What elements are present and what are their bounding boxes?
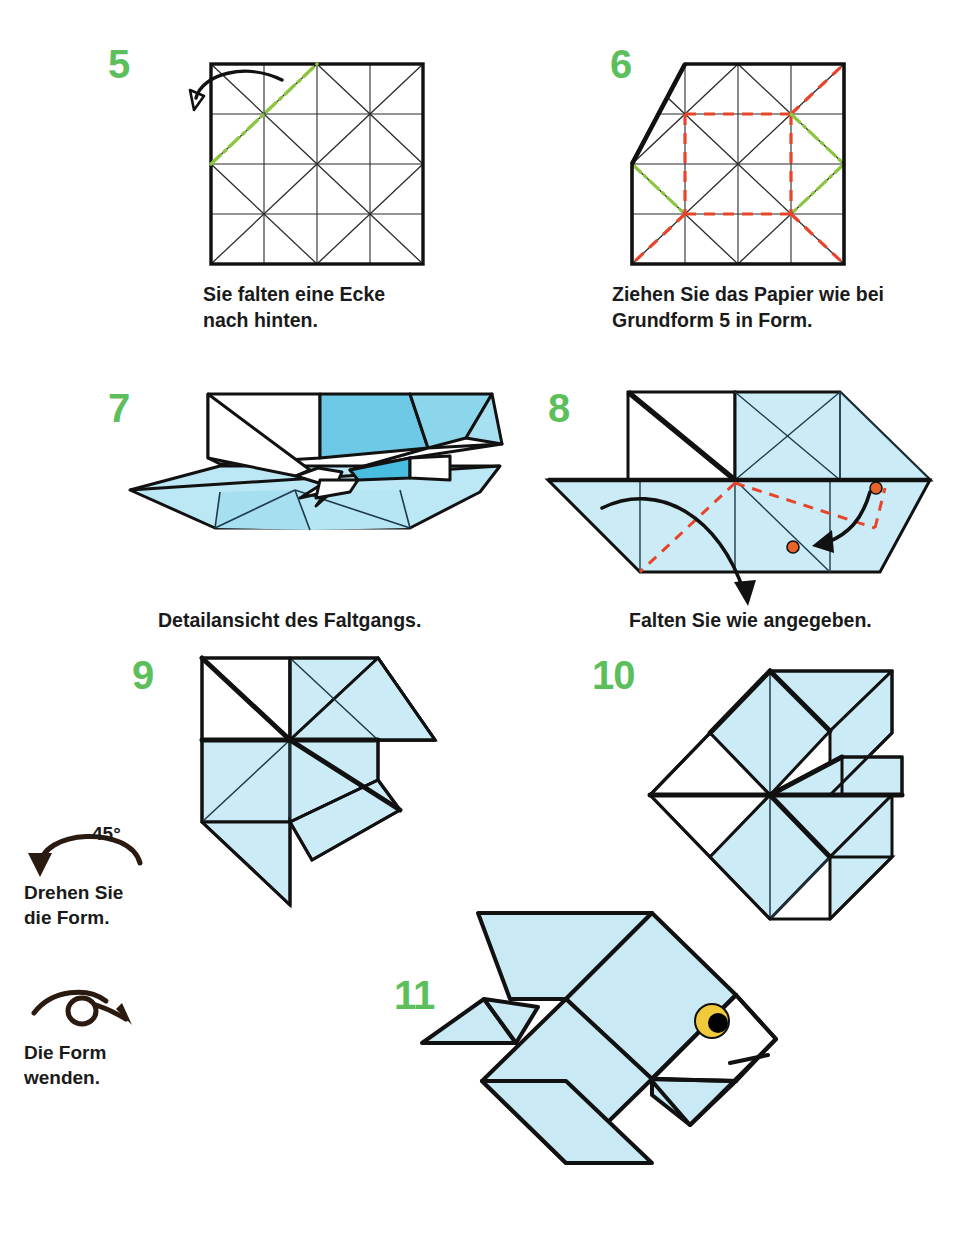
flip-symbol-group [30,985,170,1035]
marker-dot-target-step8 [787,541,799,553]
rotate-arrowhead [28,853,52,877]
caption-step-5: Sie falten eine Ecke nach hinten. [203,282,463,333]
flip-symbol-caption: Die Form wenden. [24,1040,174,1090]
figure-step-7 [110,380,510,580]
figure-step-9 [190,645,440,915]
fold-back-arrowhead-step5 [190,90,204,110]
flip-loop-icon [68,998,96,1024]
caption-step-7: Detailansicht des Faltgangs. [158,608,498,634]
figure-step-6 [590,50,880,280]
rotate-angle-label: 45° [92,823,121,845]
step-number-10: 10 [592,655,635,695]
fish-eye-pupil [708,1013,728,1033]
rotate-symbol-caption: Drehen Sie die Form. [24,880,174,930]
fold-arrowhead-left-step8 [734,580,756,606]
marker-dot-source-step8 [870,482,882,494]
step-number-5: 5 [108,44,129,84]
fold-back-arrow-step5 [196,71,282,98]
step-number-9: 9 [132,655,153,695]
figure-step-11-fish [400,895,800,1215]
caption-step-8: Falten Sie wie angegeben. [629,608,959,634]
origami-instruction-sheet: 5 [0,0,977,1234]
figure-step-8 [540,380,960,610]
figure-step-5 [150,50,440,280]
caption-step-6: Ziehen Sie das Papier wie bei Grundform … [612,282,942,333]
rotate-arrow-arc [40,836,140,867]
figure-step-10 [630,645,930,925]
